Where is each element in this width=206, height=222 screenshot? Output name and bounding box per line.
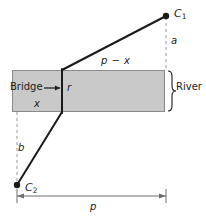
- dimension-p: [17, 189, 166, 203]
- path-c1-to-bridge: [62, 16, 166, 70]
- river-rectangle: [13, 71, 165, 112]
- point-c1-marker: [163, 13, 169, 19]
- path-bridge-to-c2: [17, 112, 62, 185]
- diagram-canvas: [0, 0, 206, 222]
- geometry-diagram: C1 C2 a b p − x p x r Bridge River: [0, 0, 206, 222]
- point-c2-marker: [14, 182, 20, 188]
- river-brace: [168, 71, 176, 111]
